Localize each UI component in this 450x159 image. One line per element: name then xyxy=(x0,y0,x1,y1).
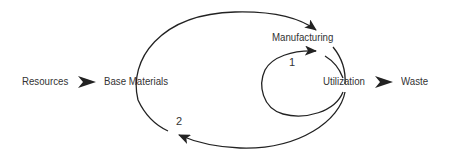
arrowhead-utilization-to-waste xyxy=(375,76,393,88)
arrowhead-resources-to-base xyxy=(78,76,96,88)
node-waste: Waste xyxy=(401,75,428,87)
node-resources: Resources xyxy=(22,75,68,87)
node-base-materials: Base Materials xyxy=(104,75,168,87)
loop-label-1: 1 xyxy=(289,56,295,68)
material-cycle-diagram: Resources Base Materials Manufacturing U… xyxy=(0,0,450,159)
loop-label-2: 2 xyxy=(176,115,182,127)
node-utilization: Utilization xyxy=(323,75,365,87)
curve-base-to-loop2 xyxy=(138,100,168,131)
arrow-utilization-to-base-loop2 xyxy=(179,92,345,148)
node-manufacturing: Manufacturing xyxy=(272,31,333,43)
